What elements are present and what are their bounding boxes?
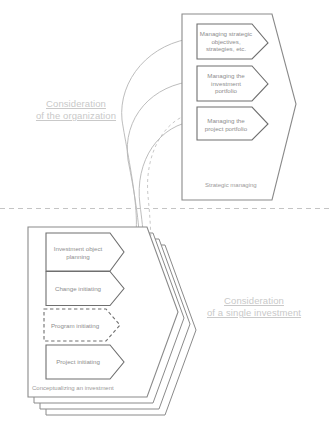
zone-label-single-investment-line2: of a single investment — [207, 307, 301, 318]
shape-change-initiating — [46, 272, 124, 306]
caption-conceptualizing-an-investment: Conceptualizing an investment — [32, 385, 114, 392]
zone-label-organization: Consideration of the organization — [18, 98, 134, 122]
top-process-shapes — [197, 24, 268, 140]
shape-program-initiating — [44, 309, 120, 341]
shape-investment-object-planning — [46, 233, 124, 271]
caption-strategic-managing: Strategic managing — [205, 182, 257, 189]
shape-project-initiating — [46, 345, 124, 379]
shape-managing-project-portfolio — [197, 107, 268, 140]
zone-label-single-investment: Consideration of a single investment — [188, 295, 320, 319]
zone-label-organization-line1: Consideration — [46, 98, 106, 109]
diagram-canvas: Consideration of the organization Consid… — [0, 0, 329, 430]
diagram-vector-layer — [0, 0, 329, 430]
zone-label-single-investment-line1: Consideration — [224, 295, 284, 306]
zone-label-organization-line2: of the organization — [36, 110, 116, 121]
shape-managing-investment-portfolio — [197, 66, 268, 101]
